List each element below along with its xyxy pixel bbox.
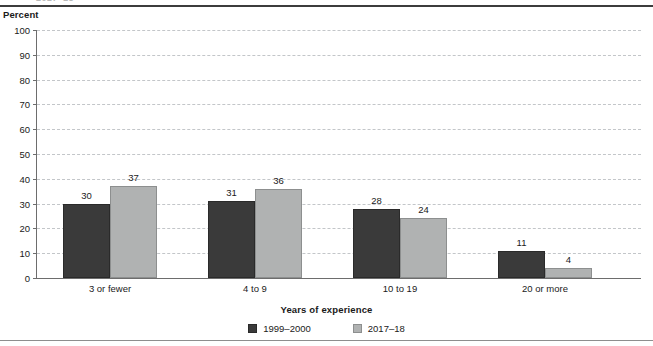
bottom-divider-rule <box>0 340 653 341</box>
y-tick-label-70: 70 <box>0 100 30 110</box>
y-tick-mark-60 <box>33 129 37 130</box>
legend-label-0: 1999–2000 <box>263 324 311 334</box>
x-axis-line <box>37 278 641 279</box>
bar-value-label-0-0: 30 <box>57 191 116 201</box>
y-tick-mark-100 <box>33 30 37 31</box>
y-tick-mark-50 <box>33 154 37 155</box>
bar-2-0 <box>353 209 400 278</box>
gridline-50 <box>37 154 641 155</box>
legend-swatch-icon-0 <box>248 324 257 333</box>
x-tick-label-3: 20 or more <box>485 284 605 294</box>
gridline-70 <box>37 104 641 105</box>
bar-value-label-0-1: 37 <box>104 173 163 183</box>
bar-1-1 <box>255 189 302 278</box>
bar-value-label-2-1: 24 <box>394 205 453 215</box>
y-tick-label-80: 80 <box>0 76 30 86</box>
bar-3-1 <box>545 268 592 278</box>
bar-value-label-1-1: 36 <box>249 176 308 186</box>
bar-1-0 <box>208 201 255 278</box>
y-tick-label-0: 0 <box>0 274 30 284</box>
legend-item-1[interactable]: 2017–18 <box>353 324 405 334</box>
y-tick-mark-0 <box>33 278 37 279</box>
y-tick-mark-30 <box>33 204 37 205</box>
legend-label-1: 2017–18 <box>368 324 405 334</box>
y-tick-label-30: 30 <box>0 200 30 210</box>
y-tick-label-50: 50 <box>0 150 30 160</box>
y-axis-title: Percent <box>3 9 39 20</box>
bar-0-0 <box>63 204 110 278</box>
y-tick-mark-10 <box>33 253 37 254</box>
y-tick-mark-20 <box>33 228 37 229</box>
gridline-100 <box>37 30 641 31</box>
bar-0-1 <box>110 186 157 278</box>
y-tick-label-90: 90 <box>0 51 30 61</box>
clipped-heading-text: 2017–18 <box>36 0 74 3</box>
y-tick-mark-80 <box>33 80 37 81</box>
y-tick-mark-40 <box>33 179 37 180</box>
gridline-90 <box>37 55 641 56</box>
y-tick-label-40: 40 <box>0 175 30 185</box>
bar-value-label-3-0: 11 <box>492 238 551 248</box>
chart-legend: 1999–20002017–18 <box>0 324 653 334</box>
y-tick-label-100: 100 <box>0 26 30 36</box>
y-tick-label-20: 20 <box>0 224 30 234</box>
y-tick-label-60: 60 <box>0 125 30 135</box>
bar-3-0 <box>498 251 545 278</box>
legend-swatch-icon-1 <box>353 324 362 333</box>
x-tick-label-0: 3 or fewer <box>50 284 170 294</box>
gridline-80 <box>37 80 641 81</box>
x-axis-title: Years of experience <box>0 304 653 315</box>
top-divider-rule <box>0 5 653 7</box>
bar-value-label-3-1: 4 <box>539 255 598 265</box>
x-tick-label-1: 4 to 9 <box>195 284 315 294</box>
y-tick-label-10: 10 <box>0 249 30 259</box>
legend-item-0[interactable]: 1999–2000 <box>248 324 311 334</box>
bar-value-label-2-0: 28 <box>347 196 406 206</box>
y-tick-mark-70 <box>33 104 37 105</box>
bar-value-label-1-0: 31 <box>202 188 261 198</box>
x-tick-label-2: 10 to 19 <box>340 284 460 294</box>
gridline-60 <box>37 129 641 130</box>
y-tick-mark-90 <box>33 55 37 56</box>
bar-2-1 <box>400 218 447 278</box>
